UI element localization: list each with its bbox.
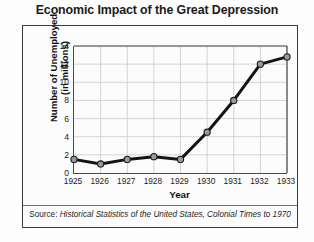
- x-axis-tick-label: 1928: [144, 176, 162, 186]
- y-axis-tick-label: 14: [59, 41, 69, 51]
- x-axis-tick-label: 1927: [117, 176, 135, 186]
- line-chart-svg: [74, 46, 287, 173]
- data-point-marker: [71, 156, 77, 162]
- source-note: Source: Historical Statistics of the Uni…: [23, 210, 297, 219]
- x-axis-tick-label: 1929: [170, 176, 188, 186]
- x-axis-tick-label: 1932: [250, 176, 268, 186]
- y-axis-tick-label: 6: [64, 114, 69, 124]
- y-axis-tick-label: 10: [59, 77, 69, 87]
- data-point-marker: [284, 54, 290, 60]
- plot-area: [73, 46, 287, 174]
- source-divider: [23, 205, 297, 206]
- x-axis-tick-label: 1931: [224, 176, 242, 186]
- y-axis-tick-labels: 02468101214: [51, 46, 69, 173]
- data-point-marker: [98, 161, 104, 167]
- x-axis-tick-label: 1925: [64, 176, 82, 186]
- source-title: Historical Statistics of the United Stat…: [60, 210, 291, 219]
- data-point-marker: [231, 97, 237, 103]
- data-point-marker: [177, 156, 183, 162]
- source-label: Source:: [29, 210, 60, 219]
- x-axis-tick-labels: 192519261927192819291930193119321933: [73, 176, 286, 190]
- chart-container: Economic Impact of the Great Depression …: [0, 0, 314, 242]
- y-axis-tick-label: 4: [64, 132, 69, 142]
- y-axis-tick-label: 2: [64, 150, 69, 160]
- data-point-marker: [204, 129, 210, 135]
- x-axis-tick-label: 1930: [197, 176, 215, 186]
- chart-frame: Number of Unemployed (in millions) 02468…: [22, 25, 298, 228]
- data-point-marker: [151, 154, 157, 160]
- y-axis-tick-label: 8: [64, 95, 69, 105]
- x-axis-title: Year: [73, 189, 286, 200]
- data-point-marker: [257, 61, 263, 67]
- x-axis-tick-label: 1926: [90, 176, 108, 186]
- y-axis-tick-label: 12: [59, 59, 69, 69]
- data-point-marker: [124, 156, 130, 162]
- x-axis-tick-label: 1933: [277, 176, 295, 186]
